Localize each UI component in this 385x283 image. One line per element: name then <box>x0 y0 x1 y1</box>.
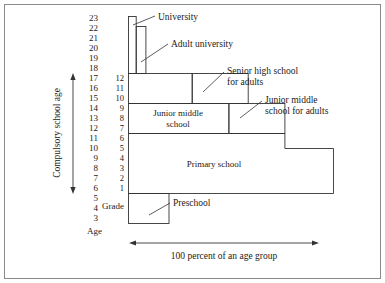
grade-tick-1: 1 <box>120 183 124 193</box>
age-tick-3: 3 <box>94 213 99 223</box>
callout-adult-university: Adult university <box>171 39 233 49</box>
age-tick-22: 22 <box>89 23 98 33</box>
callout-junior-middle-line-2: school for adults <box>265 106 329 116</box>
callout-senior-high-line-1: Senior high school <box>227 66 299 76</box>
senior-high-school-for-adults-leader-line <box>203 72 224 92</box>
callout-senior-high-school-for-adults: Senior high school for adults <box>227 66 299 87</box>
compulsory-school-age-label: Compulsory school age <box>52 88 62 178</box>
compulsory-range-arrow <box>70 73 75 194</box>
grade-tick-4: 4 <box>120 153 125 163</box>
callout-junior-middle-line-1: Junior middle <box>265 95 318 105</box>
age-tick-4: 4 <box>94 203 99 213</box>
age-tick-9: 9 <box>94 153 99 163</box>
age-tick-23: 23 <box>89 13 99 23</box>
preschool-leader-line <box>149 203 170 215</box>
diagram-page: 23 22 21 20 19 18 17 16 15 14 13 12 11 1… <box>0 0 385 283</box>
box-adult-university <box>136 27 146 74</box>
grade-tick-10: 10 <box>116 93 125 103</box>
junior-middle-school-label-line-1: Junior middle <box>153 108 203 118</box>
box-senior-high-school <box>129 74 193 104</box>
age-tick-10: 10 <box>89 143 99 153</box>
age-tick-6: 6 <box>94 183 99 193</box>
diagram-caption: 100 percent of an age group <box>171 251 278 261</box>
age-tick-16: 16 <box>89 83 99 93</box>
grade-tick-9: 9 <box>120 103 124 113</box>
grade-axis: 12 11 10 9 8 7 6 5 4 3 2 1 Grade <box>102 73 125 211</box>
age-group-width-arrow <box>129 240 319 245</box>
age-tick-19: 19 <box>89 53 99 63</box>
grade-tick-6: 6 <box>120 133 124 143</box>
education-system-diagram: 23 22 21 20 19 18 17 16 15 14 13 12 11 1… <box>0 0 385 283</box>
age-tick-17: 17 <box>89 73 99 83</box>
grade-tick-12: 12 <box>116 73 125 83</box>
age-axis-label: Age <box>87 226 102 236</box>
junior-middle-school-in-box-label: Junior middle school <box>153 108 203 129</box>
box-university <box>129 17 137 74</box>
callout-senior-high-line-2: for adults <box>227 77 263 87</box>
junior-middle-school-label-line-2: school <box>166 119 190 129</box>
grade-tick-5: 5 <box>120 143 124 153</box>
age-tick-21: 21 <box>89 33 98 43</box>
grade-tick-3: 3 <box>120 163 124 173</box>
grade-tick-7: 7 <box>120 123 124 133</box>
callout-junior-middle-school-for-adults: Junior middle school for adults <box>265 95 329 116</box>
grade-axis-label: Grade <box>102 201 124 211</box>
callout-preschool: Preschool <box>173 198 211 208</box>
age-axis: 23 22 21 20 19 18 17 16 15 14 13 12 11 1… <box>87 13 102 236</box>
age-tick-14: 14 <box>89 103 99 113</box>
grade-tick-8: 8 <box>120 113 124 123</box>
grade-tick-11: 11 <box>116 83 124 93</box>
age-tick-8: 8 <box>94 163 99 173</box>
adult-university-leader-line <box>141 44 168 62</box>
age-tick-12: 12 <box>89 123 98 133</box>
age-tick-15: 15 <box>89 93 99 103</box>
age-tick-7: 7 <box>94 173 99 183</box>
age-tick-18: 18 <box>89 63 99 73</box>
age-tick-5: 5 <box>94 193 99 203</box>
age-tick-13: 13 <box>89 113 99 123</box>
age-tick-20: 20 <box>89 43 99 53</box>
callout-university: University <box>158 12 198 22</box>
age-tick-11: 11 <box>89 133 98 143</box>
primary-school-label: Primary school <box>187 159 242 169</box>
box-preschool <box>129 194 170 224</box>
grade-tick-2: 2 <box>120 173 124 183</box>
